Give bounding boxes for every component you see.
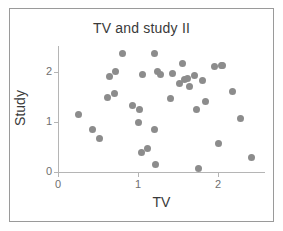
data-point: [152, 161, 159, 168]
scatter-plot-figure: TV and study II Study TV 012012: [0, 0, 283, 231]
data-point: [119, 50, 126, 57]
data-point: [104, 94, 111, 101]
data-point: [112, 68, 119, 75]
y-tick-label: 1: [22, 115, 52, 127]
y-tick-label: 0: [22, 165, 52, 177]
chart-title: TV and study II: [0, 20, 283, 36]
data-point: [167, 95, 174, 102]
x-tick-label: 0: [43, 178, 73, 190]
x-tick-mark: [138, 173, 139, 177]
y-tick-label: 2: [22, 65, 52, 77]
x-axis-title: TV: [58, 194, 265, 210]
data-point: [129, 102, 136, 109]
data-point: [151, 126, 158, 133]
data-point: [89, 126, 96, 133]
x-tick-mark: [218, 173, 219, 177]
x-tick-mark: [58, 173, 59, 177]
data-point: [248, 154, 255, 161]
data-point: [151, 50, 158, 57]
plot-area: [58, 48, 265, 172]
data-point: [157, 71, 164, 78]
data-point: [191, 72, 198, 79]
data-point: [202, 98, 209, 105]
data-point: [169, 70, 176, 77]
data-point: [96, 135, 103, 142]
data-point: [111, 90, 118, 97]
data-point: [139, 71, 146, 78]
x-tick-label: 2: [203, 178, 233, 190]
data-point: [144, 145, 151, 152]
data-point: [136, 106, 143, 113]
data-point: [211, 63, 218, 70]
data-point: [106, 73, 113, 80]
x-tick-label: 1: [123, 178, 153, 190]
data-point: [199, 77, 206, 84]
data-point: [237, 115, 244, 122]
data-point: [229, 88, 236, 95]
data-point: [135, 119, 142, 126]
data-point: [195, 165, 202, 172]
x-axis-line: [58, 172, 265, 173]
data-point: [179, 60, 186, 67]
data-point: [75, 111, 82, 118]
data-point: [193, 106, 200, 113]
data-point: [186, 83, 193, 90]
data-point: [219, 62, 226, 69]
data-point: [215, 140, 222, 147]
